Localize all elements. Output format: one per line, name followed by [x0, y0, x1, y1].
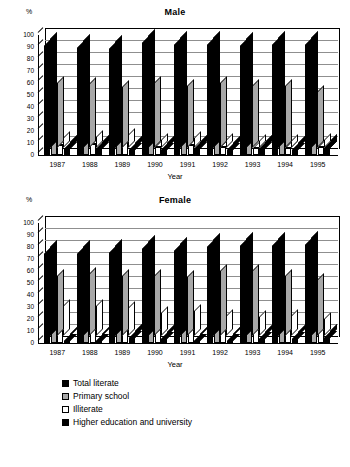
y-axis-tick-label: 90: [18, 44, 34, 51]
y-axis-tick-label: 60: [18, 268, 34, 275]
bar-side-face: [213, 31, 220, 148]
y-axis-tick-label: 40: [18, 292, 34, 299]
bar-side-face: [57, 269, 64, 336]
bar-higher-education-and-university: [129, 338, 135, 343]
x-axis-tick-label: 1994: [270, 161, 300, 168]
bar-side-face: [311, 231, 318, 336]
bar-side-face: [213, 233, 220, 336]
legend-label: Total literate: [73, 379, 119, 388]
x-axis-tick-label: 1993: [238, 161, 268, 168]
bar-side-face: [122, 269, 129, 336]
bar-higher-education-and-university: [194, 149, 200, 155]
legend-swatch-icon: [62, 419, 69, 426]
axis-depth-connector: [38, 215, 44, 221]
legend-label: Higher education and university: [73, 418, 192, 427]
bar-higher-education-and-university: [292, 150, 298, 155]
bar-side-face: [83, 34, 90, 148]
x-axis-tick-label: 1990: [140, 161, 170, 168]
bar-side-face: [57, 76, 64, 148]
bar-higher-education-and-university: [324, 148, 330, 155]
bar-side-face: [154, 269, 161, 336]
axis-depth-connector: [38, 27, 44, 33]
y-axis-tick-label: 50: [18, 92, 34, 99]
x-axis-tick-label: 1987: [42, 349, 72, 356]
x-axis-tick-label: 1987: [42, 161, 72, 168]
y-axis-tick-label: 70: [18, 68, 34, 75]
bar-side-face: [252, 264, 259, 336]
y-axis-tick-label: 100: [18, 32, 34, 39]
bar-side-face: [285, 79, 292, 148]
x-axis-line: [38, 155, 338, 156]
y-axis-tick-label: 30: [18, 116, 34, 123]
plot-area-female: 0102030405060708090100 19871988198919901…: [0, 188, 350, 373]
x-axis-tick-label: 1988: [75, 349, 105, 356]
chart-male: % Male 0102030405060708090100 1987198819…: [0, 0, 350, 185]
x-axis-tick-label: 1994: [270, 349, 300, 356]
x-axis-tick-label: 1992: [205, 349, 235, 356]
bar-illiterate: [318, 147, 324, 155]
plot-area-male: 0102030405060708090100 19871988198919901…: [0, 0, 350, 185]
legend-swatch-icon: [62, 380, 69, 387]
bar-higher-education-and-university: [292, 339, 298, 343]
gridline: [45, 216, 338, 217]
bar-side-face: [285, 269, 292, 336]
y-axis-tick-label: 0: [18, 152, 34, 159]
x-axis-title-male: Year: [0, 172, 350, 181]
bar-side-face: [278, 31, 285, 148]
legend-label: Illiterate: [73, 405, 103, 414]
bar-higher-education-and-university: [259, 149, 265, 155]
chart-legend: Total literatePrimary schoolIlliterateHi…: [62, 377, 192, 429]
bar-total-literate: [305, 45, 311, 155]
x-axis-line: [38, 343, 338, 344]
bar-side-face: [115, 239, 122, 336]
bar-total-literate: [77, 48, 83, 155]
x-axis-tick-label: 1995: [303, 349, 333, 356]
bar-higher-education-and-university: [129, 150, 135, 155]
bar-higher-education-and-university: [259, 339, 265, 343]
bar-side-face: [278, 232, 285, 336]
gridline: [45, 28, 338, 29]
bar-higher-education-and-university: [161, 339, 167, 343]
y-axis-tick-label: 40: [18, 104, 34, 111]
y-axis-line: [38, 223, 39, 343]
y-axis-tick-label: 70: [18, 256, 34, 263]
legend-item-illiterate[interactable]: Illiterate: [62, 403, 192, 416]
legend-item-total-literate[interactable]: Total literate: [62, 377, 192, 390]
bar-total-literate: [240, 246, 246, 343]
bar-side-face: [154, 76, 161, 148]
bar-side-face: [187, 270, 194, 336]
bar-side-face: [246, 32, 253, 148]
y-axis-tick-label: 60: [18, 80, 34, 87]
bar-side-face: [50, 240, 57, 336]
bar-illiterate: [253, 148, 259, 155]
y-axis-line: [38, 35, 39, 155]
y-axis-tick-label: 30: [18, 304, 34, 311]
x-axis-tick-label: 1992: [205, 161, 235, 168]
bar-total-literate: [77, 254, 83, 343]
y-axis-tick-label: 90: [18, 232, 34, 239]
bar-side-face: [220, 76, 227, 148]
x-axis-tick-label: 1988: [75, 161, 105, 168]
bar-side-face: [180, 237, 187, 336]
bar-side-face: [122, 80, 129, 148]
bar-higher-education-and-university: [227, 150, 233, 155]
legend-item-primary-school[interactable]: Primary school: [62, 390, 192, 403]
legend-swatch-icon: [62, 393, 69, 400]
bar-side-face: [83, 240, 90, 336]
y-axis-tick-label: 80: [18, 244, 34, 251]
chart-page: % Male 0102030405060708090100 1987198819…: [0, 0, 350, 467]
x-axis-tick-label: 1989: [107, 161, 137, 168]
x-axis-tick-label: 1990: [140, 349, 170, 356]
bar-side-face: [89, 77, 96, 148]
chart-female: % Female 0102030405060708090100 19871988…: [0, 188, 350, 373]
legend-label: Primary school: [73, 392, 129, 401]
bar-higher-education-and-university: [161, 150, 167, 155]
y-axis-tick-label: 20: [18, 316, 34, 323]
x-axis-title-female: Year: [0, 360, 350, 369]
x-axis-tick-label: 1991: [173, 349, 203, 356]
legend-item-higher-education-and-university[interactable]: Higher education and university: [62, 416, 192, 429]
bar-side-face: [89, 267, 96, 336]
y-axis-tick-label: 20: [18, 128, 34, 135]
bar-side-face: [246, 232, 253, 336]
bar-side-face: [317, 85, 324, 148]
